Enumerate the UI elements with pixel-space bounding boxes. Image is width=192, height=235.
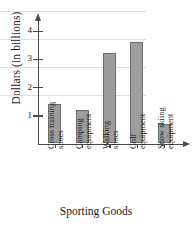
y-axis-arrow-icon — [35, 13, 41, 21]
x-axis-category-label-line1: Camping — [75, 118, 84, 149]
x-axis-category-label-line2: equipment — [138, 114, 147, 149]
y-axis-tick — [33, 115, 43, 116]
y-axis-tick-label: 2 — [23, 83, 32, 92]
bar-chart: Dollars (in billions) 1234 Cross trainin… — [0, 0, 192, 235]
x-axis-category-label-line1: Snow skiing — [157, 107, 166, 149]
x-axis-category-label-line2: shoes — [111, 130, 120, 149]
x-axis-category-label-line1: Walking — [102, 121, 111, 149]
y-axis-tick-label: 4 — [23, 26, 32, 35]
y-axis-tick-label: 1 — [23, 111, 32, 120]
y-axis-tick — [33, 87, 43, 88]
x-axis-title: Sporting Goods — [0, 205, 192, 217]
x-axis-category-label-line1: Golf — [129, 134, 138, 149]
y-axis-tick — [33, 31, 43, 32]
y-axis-tick-label: 3 — [23, 54, 32, 63]
x-axis-category-label: Snow skiingequipment — [157, 87, 192, 149]
x-axis-category-label-line2: equipment — [84, 114, 93, 149]
gridline — [0, 11, 146, 12]
y-axis-line — [38, 20, 39, 144]
x-axis-category-label-line2: shoes — [57, 130, 66, 149]
gridline — [0, 67, 146, 68]
y-axis-tick — [33, 59, 43, 60]
x-axis-category-label-line2: equipment — [166, 114, 175, 149]
gridline — [0, 39, 146, 40]
